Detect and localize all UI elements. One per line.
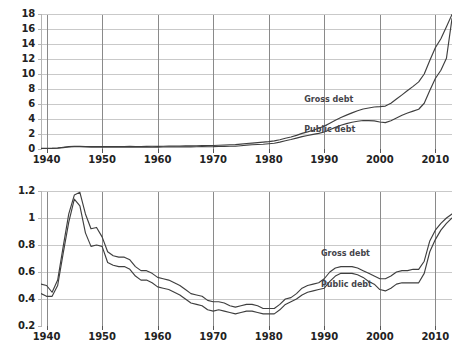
x-tick-label: 1990	[304, 154, 344, 165]
y-tick-mark	[38, 104, 42, 105]
x-tick-label: 2010	[415, 331, 454, 342]
x-tick-label: 1960	[138, 154, 178, 165]
plot-svg-top	[41, 14, 452, 149]
x-tick-label: 1940	[27, 154, 67, 165]
y-tick-mark	[38, 272, 42, 273]
y-tick-mark	[38, 149, 42, 150]
y-tick-mark	[38, 218, 42, 219]
y-tick-label: 10	[0, 68, 35, 79]
x-tick-label: 1950	[82, 154, 122, 165]
y-tick-label: 0.8	[0, 239, 35, 250]
x-tick-mark	[158, 326, 159, 330]
y-tick-mark	[38, 74, 42, 75]
chart-panel-debt-trillions: Debt (trillions of 2009 $) 0246810121416…	[0, 0, 454, 177]
y-tick-mark	[38, 134, 42, 135]
plot-svg-bottom	[41, 191, 452, 326]
x-tick-mark	[158, 149, 159, 153]
y-tick-label: 1	[0, 212, 35, 223]
chart-panel-debt-gdp-fraction: Debt as a fraction of GDP 0.20.40.60.811…	[0, 177, 454, 354]
y-tick-label: 4	[0, 113, 35, 124]
x-tick-mark	[324, 149, 325, 153]
y-tick-label: 0	[0, 143, 35, 154]
x-tick-label: 1980	[249, 331, 289, 342]
x-tick-label: 1970	[193, 154, 233, 165]
y-tick-label: 0.6	[0, 266, 35, 277]
y-tick-mark	[38, 14, 42, 15]
x-tick-mark	[380, 326, 381, 330]
x-tick-label: 1980	[249, 154, 289, 165]
x-tick-label: 2000	[360, 331, 400, 342]
x-tick-mark	[380, 149, 381, 153]
y-tick-mark	[38, 29, 42, 30]
x-tick-mark	[102, 326, 103, 330]
x-tick-mark	[213, 149, 214, 153]
y-tick-mark	[38, 89, 42, 90]
x-tick-mark	[102, 149, 103, 153]
y-tick-label: 18	[0, 8, 35, 19]
plot-area-top	[41, 14, 452, 149]
x-tick-label: 1940	[27, 331, 67, 342]
x-tick-label: 1990	[304, 331, 344, 342]
y-tick-mark	[38, 119, 42, 120]
x-tick-label: 1950	[82, 331, 122, 342]
y-tick-label: 0.4	[0, 293, 35, 304]
y-tick-mark	[38, 245, 42, 246]
x-tick-mark	[213, 326, 214, 330]
series-label-public-debt: Public debt	[304, 125, 355, 134]
y-tick-mark	[38, 191, 42, 192]
x-tick-mark	[435, 326, 436, 330]
x-tick-mark	[47, 149, 48, 153]
y-tick-mark	[38, 326, 42, 327]
x-tick-label: 2000	[360, 154, 400, 165]
x-tick-label: 1970	[193, 331, 233, 342]
x-tick-mark	[269, 149, 270, 153]
x-tick-mark	[269, 326, 270, 330]
y-tick-label: 12	[0, 53, 35, 64]
x-tick-label: 2010	[415, 154, 454, 165]
y-tick-mark	[38, 299, 42, 300]
y-tick-label: 6	[0, 98, 35, 109]
y-tick-label: 0.2	[0, 320, 35, 331]
y-tick-label: 2	[0, 128, 35, 139]
y-tick-label: 1.2	[0, 185, 35, 196]
y-tick-mark	[38, 59, 42, 60]
x-tick-label: 1960	[138, 331, 178, 342]
debt-chart-figure: Debt (trillions of 2009 $) 0246810121416…	[0, 0, 454, 354]
x-tick-mark	[324, 326, 325, 330]
y-tick-label: 8	[0, 83, 35, 94]
y-tick-label: 16	[0, 23, 35, 34]
series-label-gross-debt: Gross debt	[321, 249, 370, 258]
x-tick-mark	[435, 149, 436, 153]
plot-area-bottom	[41, 191, 452, 326]
y-tick-label: 14	[0, 38, 35, 49]
series-label-public-debt: Public debt	[321, 280, 372, 289]
y-tick-mark	[38, 44, 42, 45]
x-tick-mark	[47, 326, 48, 330]
series-label-gross-debt: Gross debt	[304, 95, 353, 104]
